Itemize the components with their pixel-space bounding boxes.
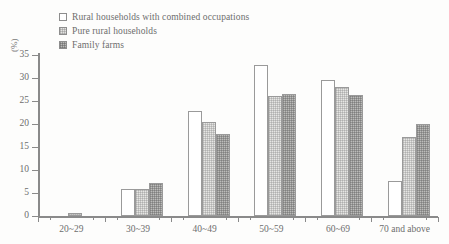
y-axis-tick-label: 0 bbox=[8, 210, 29, 220]
bar bbox=[335, 87, 349, 216]
legend-swatch-icon-series-1 bbox=[59, 13, 67, 21]
x-axis-tick bbox=[305, 217, 306, 222]
x-axis-minor-tick bbox=[293, 217, 294, 220]
y-axis-tick-label: 30 bbox=[8, 72, 29, 82]
bar bbox=[149, 183, 163, 216]
legend-label-series-1: Rural households with combined occupatio… bbox=[72, 12, 249, 22]
bar bbox=[268, 96, 282, 216]
plot-area bbox=[38, 55, 438, 216]
bar bbox=[321, 80, 335, 216]
chart-legend: Rural households with combined occupatio… bbox=[59, 11, 319, 53]
x-axis-minor-tick bbox=[183, 217, 184, 220]
x-axis-tick-label: 30~39 bbox=[126, 224, 150, 234]
legend-item-series-1: Rural households with combined occupatio… bbox=[59, 11, 319, 23]
x-axis-tick-label: 70 and above bbox=[379, 224, 430, 234]
legend-swatch-icon-series-3 bbox=[59, 41, 67, 49]
y-axis-tick-label: 35 bbox=[8, 49, 29, 59]
x-axis-tick bbox=[38, 217, 39, 222]
x-axis-minor-tick bbox=[93, 217, 94, 220]
bar bbox=[68, 213, 82, 216]
x-axis-minor-tick bbox=[159, 217, 160, 220]
x-axis-minor-tick bbox=[117, 217, 118, 220]
x-axis-tick-label: 60~69 bbox=[326, 224, 350, 234]
x-axis-minor-tick bbox=[426, 217, 427, 220]
bar bbox=[388, 181, 402, 216]
x-axis-tick-label: 40~49 bbox=[193, 224, 217, 234]
bar bbox=[202, 122, 216, 216]
bar bbox=[135, 189, 149, 216]
x-axis-minor-tick bbox=[226, 217, 227, 220]
x-axis-minor-tick bbox=[383, 217, 384, 220]
x-axis-tick-label: 20~29 bbox=[59, 224, 83, 234]
bar bbox=[216, 134, 230, 216]
x-axis-tick bbox=[438, 217, 439, 222]
bar bbox=[188, 111, 202, 216]
y-axis-tick-label: 5 bbox=[8, 187, 29, 197]
y-axis-tick-label: 10 bbox=[8, 164, 29, 174]
legend-label-series-3: Family farms bbox=[72, 40, 124, 50]
x-axis-minor-tick bbox=[317, 217, 318, 220]
bar bbox=[402, 137, 416, 216]
x-axis-tick-label: 50~59 bbox=[259, 224, 283, 234]
x-axis-tick bbox=[171, 217, 172, 222]
bar bbox=[282, 94, 296, 216]
y-axis-tick-label: 20 bbox=[8, 118, 29, 128]
y-axis-tick-label: 15 bbox=[8, 141, 29, 151]
bar bbox=[416, 124, 430, 216]
y-axis-tick-label: 25 bbox=[8, 95, 29, 105]
x-axis-tick bbox=[371, 217, 372, 222]
bar bbox=[254, 65, 268, 216]
bar-chart: Rural households with combined occupatio… bbox=[0, 0, 449, 244]
x-axis-minor-tick bbox=[250, 217, 251, 220]
x-axis-tick bbox=[238, 217, 239, 222]
legend-item-series-3: Family farms bbox=[59, 39, 319, 51]
legend-label-series-2: Pure rural households bbox=[72, 26, 157, 36]
bar bbox=[349, 95, 363, 216]
x-axis-minor-tick bbox=[50, 217, 51, 220]
x-axis-minor-tick bbox=[359, 217, 360, 220]
bar bbox=[121, 189, 135, 216]
x-axis-tick bbox=[105, 217, 106, 222]
legend-swatch-icon-series-2 bbox=[59, 27, 67, 35]
legend-item-series-2: Pure rural households bbox=[59, 25, 319, 37]
